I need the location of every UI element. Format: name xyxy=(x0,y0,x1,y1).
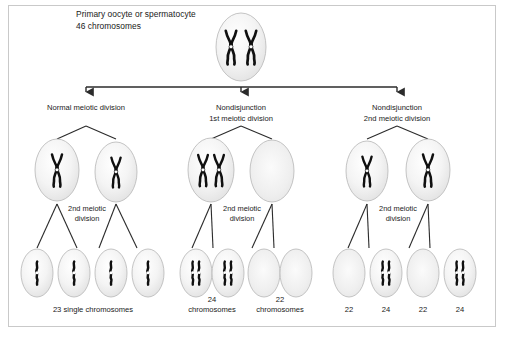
gamete-nd1-22-b xyxy=(280,249,312,297)
stage-label-nd1-line2: division xyxy=(201,215,283,224)
branch-label-nd-second-line2: 2nd meiotic division xyxy=(317,115,477,124)
secondary-cell-nd1-2-empty xyxy=(250,140,294,202)
gamete-label-nd2-d: 24 xyxy=(445,306,475,315)
meiosis-nondisjunction-diagram: Primary oocyte or spermatocyte 46 chromo… xyxy=(0,0,506,338)
gamete-nd1-24-b xyxy=(212,249,244,297)
stage-label-nd2-line1: 2nd meiotic xyxy=(357,205,439,214)
stage-label-normal-line1: 2nd meiotic xyxy=(46,205,128,214)
gamete-label-nd2-b: 24 xyxy=(371,306,401,315)
gamete-nd1-22-a xyxy=(248,249,280,297)
gamete-nd2-22-b xyxy=(407,249,439,297)
secondary-cells xyxy=(35,138,450,202)
primary-cell xyxy=(216,13,266,81)
gamete-label-nd2-a: 22 xyxy=(334,306,364,315)
secondary-cell-nd1-1 xyxy=(188,138,234,202)
division-arrow-bus xyxy=(86,87,397,92)
stage-label-nd2-line2: division xyxy=(357,215,439,224)
gamete-label-nd1-22-count: 22 xyxy=(240,296,320,305)
gamete-label-nd1-22-unit: chromosomes xyxy=(240,306,320,315)
gamete-label-normal: 23 single chromosomes xyxy=(23,306,163,315)
figure-title-line2: 46 chromosomes xyxy=(76,22,141,32)
gamete-nd2-24-a xyxy=(370,249,402,297)
branch-label-nd-first-line1: Nondisjunction xyxy=(161,104,321,113)
gamete-nd2-22-a xyxy=(333,249,365,297)
gamete-nd2-24-b xyxy=(444,249,476,297)
stage-label-nd1-line1: 2nd meiotic xyxy=(201,205,283,214)
gamete-cells xyxy=(21,249,476,297)
figure-title-line1: Primary oocyte or spermatocyte xyxy=(76,10,196,20)
gamete-label-nd2-c: 22 xyxy=(408,306,438,315)
gamete-nd1-24-a xyxy=(180,249,212,297)
branch-connectors xyxy=(57,126,428,139)
branch-label-normal: Normal meiotic division xyxy=(6,104,166,113)
diagram-graphics xyxy=(0,0,506,338)
branch-label-nd-first-line2: 1st meiotic division xyxy=(161,115,321,124)
stage-label-normal-line2: division xyxy=(46,215,128,224)
branch-label-nd-second-line1: Nondisjunction xyxy=(317,104,477,113)
